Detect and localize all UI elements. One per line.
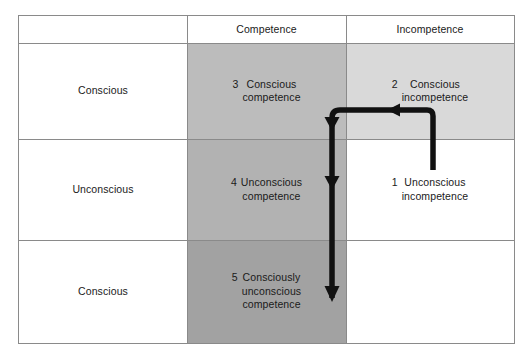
cell-unconscious-incompetence-text: Unconscious incompetence bbox=[402, 176, 469, 203]
cell-consciously-unconscious-competence-content: 5 Consciously unconscious competence bbox=[232, 271, 301, 312]
row-label-3-text: Conscious bbox=[78, 285, 128, 299]
cell-conscious-competence-number: 3 bbox=[232, 78, 238, 92]
cell-empty-incompetence bbox=[346, 240, 514, 343]
header-competence: Competence bbox=[187, 16, 346, 43]
row-label-1-text: Conscious bbox=[78, 84, 128, 98]
matrix-table: Competence Incompetence Conscious 3 Cons… bbox=[18, 15, 515, 344]
cell-unconscious-incompetence-number: 1 bbox=[392, 176, 398, 190]
cell-unconscious-competence-number: 4 bbox=[231, 176, 237, 190]
header-corner-cell bbox=[19, 16, 187, 43]
cell-consciously-unconscious-competence: 5 Consciously unconscious competence bbox=[187, 240, 346, 343]
cell-unconscious-incompetence-content: 1 Unconscious incompetence bbox=[392, 176, 469, 203]
cell-conscious-incompetence-content: 2 Conscious incompetence bbox=[392, 78, 469, 105]
cell-conscious-incompetence: 2 Conscious incompetence bbox=[346, 43, 514, 139]
cell-consciously-unconscious-competence-text: Consciously unconscious competence bbox=[242, 271, 301, 312]
row-label-2-text: Unconscious bbox=[72, 183, 133, 197]
row-label-1: Conscious bbox=[19, 43, 187, 139]
cell-unconscious-competence-content: 4 Unconscious competence bbox=[231, 176, 302, 203]
cell-conscious-incompetence-number: 2 bbox=[392, 78, 398, 92]
header-incompetence: Incompetence bbox=[346, 16, 514, 43]
cell-conscious-competence-text: Conscious competence bbox=[242, 78, 300, 105]
cell-conscious-competence: 3 Conscious competence bbox=[187, 43, 346, 139]
cell-unconscious-competence-text: Unconscious competence bbox=[241, 176, 302, 203]
competence-matrix-diagram: Competence Incompetence Conscious 3 Cons… bbox=[0, 0, 531, 358]
header-incompetence-label: Incompetence bbox=[396, 23, 463, 37]
cell-unconscious-competence: 4 Unconscious competence bbox=[187, 139, 346, 240]
cell-unconscious-incompetence: 1 Unconscious incompetence bbox=[346, 139, 514, 240]
cell-conscious-incompetence-text: Conscious incompetence bbox=[402, 78, 469, 105]
cell-consciously-unconscious-competence-number: 5 bbox=[232, 271, 238, 285]
row-label-2: Unconscious bbox=[19, 139, 187, 240]
cell-conscious-competence-content: 3 Conscious competence bbox=[232, 78, 300, 105]
header-competence-label: Competence bbox=[236, 23, 297, 37]
row-label-3: Conscious bbox=[19, 240, 187, 343]
